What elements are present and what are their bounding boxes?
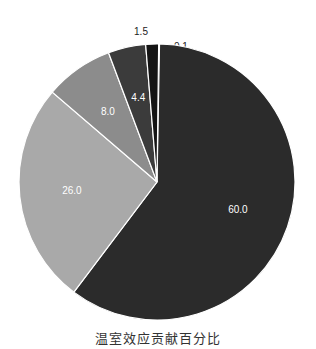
slice-label: 1.5 (134, 26, 148, 37)
pie-chart: 0.160.026.08.04.41.5 (0, 0, 316, 330)
slice-label: 4.4 (131, 92, 145, 103)
slice-label: 60.0 (228, 204, 248, 215)
slice-label: 8.0 (101, 106, 115, 117)
chart-title: 温室效应贡献百分比 (0, 328, 316, 347)
slice-label: 26.0 (62, 185, 82, 196)
